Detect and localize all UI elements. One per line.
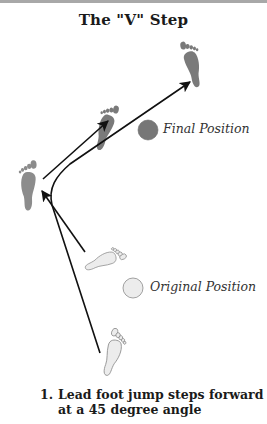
arrow-left-to-middle	[43, 121, 108, 179]
v-step-diagram	[0, 0, 267, 424]
original-left-foot-icon	[83, 244, 128, 278]
original-position-legend-dot	[123, 278, 143, 298]
legend-final-position-label: Final Position	[163, 121, 250, 136]
step-number: 1.	[40, 387, 53, 402]
step-caption-line-1: Lead foot jump steps forward	[40, 387, 267, 402]
final-position-legend-dot	[138, 120, 158, 140]
original-right-foot-icon	[96, 327, 130, 377]
step-caption-line-2: at a 45 degree angle	[40, 402, 267, 417]
final-left-foot-icon	[18, 160, 40, 211]
final-right-foot-icon	[180, 40, 204, 89]
step-caption: 1. Lead foot jump steps forward at a 45 …	[40, 387, 267, 417]
legend-original-position-label: Original Position	[150, 279, 256, 294]
